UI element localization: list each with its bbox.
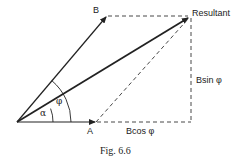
label-b: B <box>93 5 99 15</box>
label-resultant: Resultant <box>192 8 230 18</box>
vector-b <box>17 17 106 122</box>
label-alpha: α <box>40 108 46 118</box>
label-phi: φ <box>56 96 62 106</box>
dashed-b-translate <box>96 19 188 122</box>
label-bcos-phi: Bcos φ <box>126 126 154 136</box>
vector-resultant <box>17 18 188 122</box>
label-a: A <box>87 126 93 136</box>
arc-alpha <box>51 109 53 122</box>
figure-caption: Fig. 6.6 <box>100 145 131 156</box>
label-bsin-phi: Bsin φ <box>196 75 222 85</box>
